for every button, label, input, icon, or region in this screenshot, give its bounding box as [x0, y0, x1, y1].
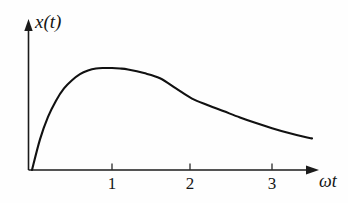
x-axis-tick-group	[112, 164, 272, 171]
y-axis-label: x(t)	[35, 12, 61, 31]
y-axis-arrow-icon	[24, 19, 32, 31]
x-axis-arrow-icon	[306, 165, 319, 174]
x-tick-label-2: 2	[179, 175, 201, 192]
x-axis-label: ωt	[319, 172, 337, 190]
x-tick-label-3: 3	[261, 175, 283, 192]
data-curve-x-of-t	[32, 68, 312, 170]
figure-plot-area: x(t) ωt 1 2 3	[0, 0, 348, 203]
x-tick-label-1: 1	[101, 175, 123, 192]
